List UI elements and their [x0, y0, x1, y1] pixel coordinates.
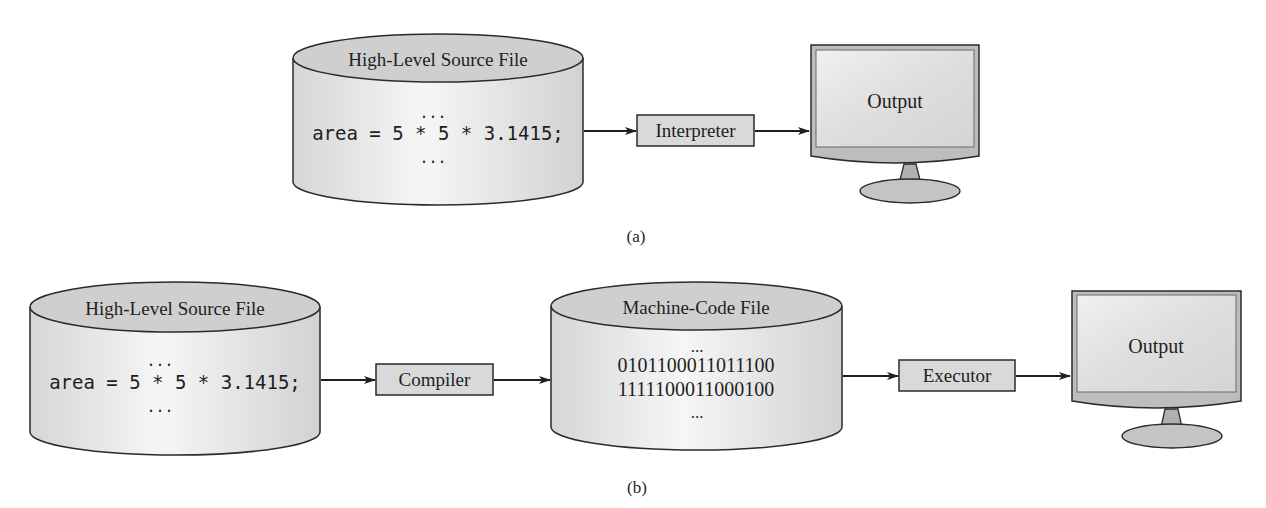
diagram-b: High-Level Source File ... area = 5 * 5 …: [30, 282, 1241, 497]
monitor-icon: Output: [1072, 291, 1241, 448]
binary-line-2: 1111100011000100: [618, 378, 774, 400]
source-code-line: area = 5 * 5 * 3.1415;: [312, 122, 564, 144]
compiler-label: Compiler: [399, 369, 471, 390]
compiler-box: Compiler: [376, 364, 493, 395]
caption-a: (a): [627, 227, 646, 246]
binary-line-1: 0101100011011100: [617, 354, 774, 376]
dots-bottom: ...: [691, 403, 704, 422]
source-file-cylinder-b: High-Level Source File ... area = 5 * 5 …: [30, 282, 320, 455]
machine-code-title: Machine-Code File: [622, 297, 769, 318]
output-label: Output: [1128, 335, 1184, 358]
executor-box: Executor: [899, 360, 1015, 391]
source-file-cylinder-a: High-Level Source File ... area = 5 * 5 …: [293, 34, 583, 205]
interpreter-label: Interpreter: [655, 120, 736, 141]
output-label: Output: [867, 90, 923, 113]
interpreter-box: Interpreter: [637, 115, 754, 146]
source-file-title: High-Level Source File: [348, 49, 527, 70]
dots-bottom: ...: [146, 398, 173, 416]
dots-bottom: ...: [419, 149, 446, 167]
dots-top: ...: [146, 352, 173, 370]
monitor-icon: Output: [811, 45, 979, 203]
dots-top: ...: [419, 104, 446, 122]
source-file-title: High-Level Source File: [85, 298, 264, 319]
caption-b: (b): [627, 478, 647, 497]
source-code-line: area = 5 * 5 * 3.1415;: [49, 371, 301, 393]
diagram-a: High-Level Source File ... area = 5 * 5 …: [293, 34, 979, 246]
executor-label: Executor: [923, 365, 992, 386]
machine-code-cylinder: Machine-Code File ... 0101100011011100 1…: [551, 282, 842, 450]
diagram-canvas: High-Level Source File ... area = 5 * 5 …: [0, 0, 1266, 508]
